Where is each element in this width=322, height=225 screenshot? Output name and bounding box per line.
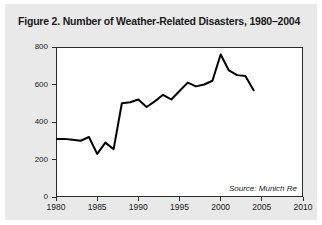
data-line	[56, 55, 254, 154]
y-axis-label: 600	[22, 80, 48, 89]
x-axis-label: 2005	[245, 202, 279, 212]
x-axis-tick	[303, 197, 304, 201]
figure-title: Figure 2. Number of Weather-Related Disa…	[18, 15, 308, 27]
y-axis-tick	[52, 122, 56, 123]
x-axis-tick	[220, 197, 221, 201]
x-axis-label: 2010	[286, 202, 320, 212]
x-axis-tick	[56, 197, 57, 201]
x-axis-tick	[138, 197, 139, 201]
y-axis-tick	[52, 47, 56, 48]
figure-panel: Figure 2. Number of Weather-Related Disa…	[5, 4, 317, 220]
source-note: Source: Munich Re	[229, 184, 297, 193]
x-axis-label: 1985	[80, 202, 114, 212]
x-axis-label: 1980	[39, 202, 73, 212]
x-axis-tick	[261, 197, 262, 201]
y-axis-label: 200	[22, 155, 48, 164]
x-axis-label: 2000	[204, 202, 238, 212]
y-axis-label: 400	[22, 117, 48, 126]
y-axis-label: 0	[22, 192, 48, 201]
x-axis-tick	[97, 197, 98, 201]
y-axis-label: 800	[22, 42, 48, 51]
line-chart-svg	[56, 47, 303, 197]
x-axis-label: 1990	[121, 202, 155, 212]
y-axis-tick	[52, 159, 56, 160]
y-axis-tick	[52, 84, 56, 85]
plot-area: Source: Munich Re 0200400600800198019851…	[56, 47, 303, 197]
x-axis-tick	[179, 197, 180, 201]
x-axis-label: 1995	[163, 202, 197, 212]
